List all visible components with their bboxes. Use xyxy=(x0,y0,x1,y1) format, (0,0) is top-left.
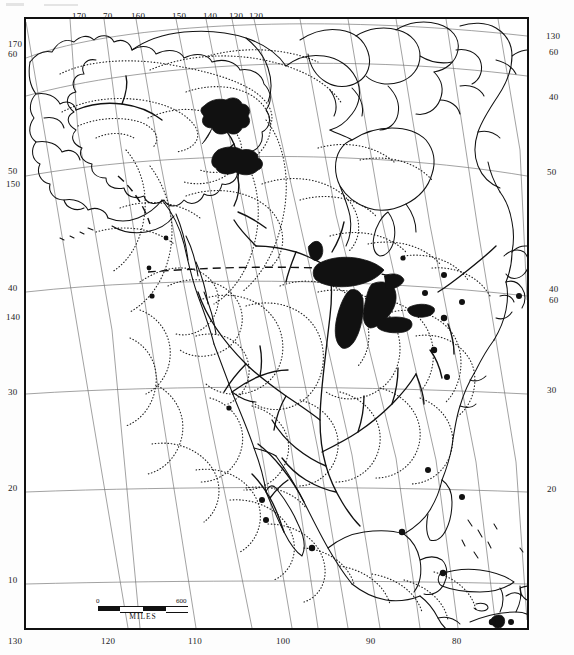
graticule-label: 100 xyxy=(276,636,290,646)
coastlines xyxy=(29,22,556,634)
graticule-label: 40 xyxy=(549,92,559,102)
graticule-label: 60 xyxy=(549,47,559,57)
graticule-label: 130 xyxy=(229,11,243,21)
graticule-label: 60 xyxy=(8,49,18,59)
scale-start-label: 0 xyxy=(96,597,100,605)
dotted-region-boundaries xyxy=(60,50,490,620)
graticule-label: 20 xyxy=(8,483,18,493)
graticule-label: 120 xyxy=(249,11,263,21)
graticule-label: 110 xyxy=(188,636,202,646)
scale-segment xyxy=(143,606,166,611)
graticule-label: 130 xyxy=(546,31,560,41)
graticule-label: 140 xyxy=(203,11,217,21)
graticule-label: 70 xyxy=(103,11,113,21)
filled-lakes xyxy=(201,98,505,628)
scale-bar: 0 600 MILES xyxy=(98,606,190,611)
graticule-label: 40 xyxy=(549,284,559,294)
scale-end-label: 600 xyxy=(176,597,187,605)
graticule-label: 30 xyxy=(547,385,557,395)
graticule-label: 150 xyxy=(172,11,186,21)
graticule-label: 30 xyxy=(8,387,18,397)
graticule-label: 170 xyxy=(8,39,22,49)
graticule-label: 80 xyxy=(452,636,462,646)
graticule-label: 150 xyxy=(6,179,20,189)
graticule-label: 20 xyxy=(547,484,557,494)
graticule-label: 40 xyxy=(8,283,18,293)
graticule-label: 160 xyxy=(131,11,145,21)
rivers xyxy=(76,76,496,532)
graticule-label: 50 xyxy=(8,166,18,176)
graticule-label: 90 xyxy=(366,636,376,646)
graticule-label: 50 xyxy=(547,167,557,177)
scale-segment xyxy=(98,606,120,611)
map-graphic xyxy=(0,0,574,655)
city-point-symbols xyxy=(147,236,522,626)
graticule-label: 10 xyxy=(8,575,18,585)
scale-unit-label: MILES xyxy=(98,612,188,621)
graticule-label: 130 xyxy=(8,636,22,646)
graticule-label: 120 xyxy=(101,636,115,646)
map-page: 170 70 160 150 140 130 120 170 60 50 150… xyxy=(0,0,574,655)
graticule-label: 140 xyxy=(6,312,20,322)
graticule-label: 170 xyxy=(72,11,86,21)
graticule-label: 60 xyxy=(549,295,559,305)
